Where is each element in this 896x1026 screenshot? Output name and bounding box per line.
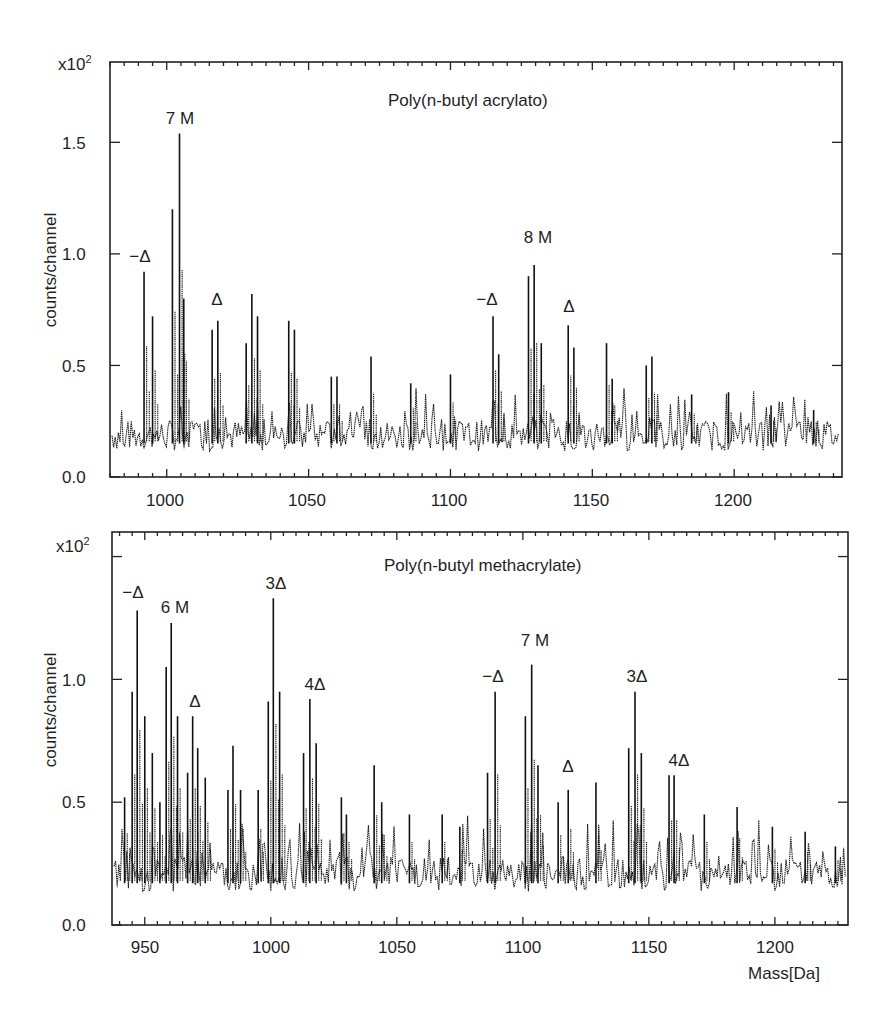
bottom-annot-3delta-2: 3Δ (627, 667, 648, 686)
top-xtick-1200: 1200 (714, 491, 752, 510)
top-annot-delta-1: Δ (211, 290, 222, 309)
top-y-axis-label: counts/channel (41, 213, 60, 327)
bottom-ytick-0.0: 0.0 (62, 916, 86, 935)
top-xtick-1000: 1000 (146, 491, 184, 510)
bottom-y-multiplier: x102 (56, 535, 90, 556)
top-xtick-1150: 1150 (573, 491, 610, 510)
bottom-annot-delta-1: Δ (189, 692, 200, 711)
top-spectrum-panel: x102 1.5 1.0 0.5 0.0 1000 1050 1100 1150… (41, 53, 842, 510)
top-ytick-0.0: 0.0 (62, 468, 86, 487)
top-ytick-1.5: 1.5 (62, 134, 86, 153)
top-y-multiplier: x102 (58, 53, 92, 74)
top-panel-title: Poly(n-butyl acrylato) (388, 91, 548, 110)
bottom-xtick-950: 950 (131, 938, 159, 957)
bottom-panel-title: Poly(n-butyl methacrylate) (384, 556, 581, 575)
top-annot-minus-delta-2: −Δ (476, 290, 497, 309)
bottom-y-axis-label: counts/channel (41, 653, 60, 767)
top-xtick-1100: 1100 (431, 491, 468, 510)
top-annot-minus-delta-1: −Δ (129, 247, 150, 266)
top-annot-delta-2: Δ (563, 297, 574, 316)
bottom-x-axis-label: Mass[Da] (748, 964, 820, 983)
top-plot-frame (110, 62, 842, 477)
bottom-annot-6M: 6 M (161, 598, 189, 617)
top-ytick-0.5: 0.5 (62, 357, 86, 376)
bottom-annot-4delta-2: 4Δ (669, 751, 690, 770)
top-xtick-1050: 1050 (288, 491, 326, 510)
bottom-ytick-1.0: 1.0 (62, 671, 86, 690)
top-axis-ticks (110, 62, 842, 477)
top-annot-8M: 8 M (524, 228, 552, 247)
bottom-annot-7M: 7 M (521, 631, 549, 650)
bottom-annot-minus-delta-1: −Δ (122, 583, 143, 602)
bottom-ytick-0.5: 0.5 (62, 793, 86, 812)
spectrum-baseline (114, 816, 845, 892)
bottom-annot-4delta-1: 4Δ (305, 675, 326, 694)
bottom-annot-3delta-1: 3Δ (266, 574, 287, 593)
mass-spectra-figure: x102 1.5 1.0 0.5 0.0 1000 1050 1100 1150… (0, 0, 896, 1026)
bottom-xtick-1100: 1100 (505, 938, 542, 957)
bottom-annot-minus-delta-2: −Δ (482, 667, 503, 686)
top-annot-7M: 7 M (166, 109, 194, 128)
bottom-xtick-1200: 1200 (756, 938, 794, 957)
bottom-spectrum-panel: x102 1.0 0.5 0.0 950 1000 1050 1100 1150… (41, 532, 848, 983)
bottom-annot-delta-2: Δ (562, 757, 573, 776)
bottom-spectrum-trace (114, 598, 845, 891)
top-ytick-1.0: 1.0 (62, 245, 86, 264)
bottom-xtick-1050: 1050 (378, 938, 416, 957)
bottom-xtick-1000: 1000 (252, 938, 290, 957)
bottom-xtick-1150: 1150 (631, 938, 668, 957)
